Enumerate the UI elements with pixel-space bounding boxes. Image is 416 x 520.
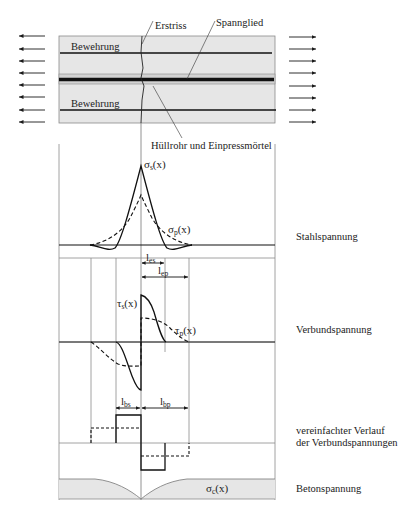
top-reinforcement-label: Bewehrung [71,41,120,52]
steel-stress-panel: σs(x) σp(x) Stahlspannung les lep [59,158,359,278]
concrete-stress-title: Betonspannung [296,483,362,494]
tau-s-label: τs(x) [117,297,138,311]
tension-member-diagram: Erstriss Spannglied Bewehrung Bewehrung … [0,0,416,520]
concrete-stress-panel: σc(x) Betonspannung [59,479,362,499]
steel-stress-title: Stahlspannung [296,231,359,242]
l-bs-label: lbs [121,395,131,409]
diagram-frame [59,123,275,500]
simplified-tau-s [116,415,165,470]
l-ep-label: lep [158,264,168,278]
bond-stress-title: Verbundspannung [296,324,373,335]
left-tension-arrows [19,36,45,122]
simplified-bond-title-2: der Verbundspannungen [296,437,398,448]
tau-p-label: τp(x) [175,324,196,338]
sigma-s-label: σs(x) [144,158,166,172]
l-es-label: les [146,251,155,265]
simplified-bond-panel: lbs lbp vereinfachter Verlauf der Verbun… [91,395,398,470]
tendon-label: Spannglied [216,17,264,28]
l-bp-label: lbp [160,395,171,409]
simplified-bond-title-1: vereinfachter Verlauf [296,425,385,436]
bottom-reinforcement-label: Bewehrung [71,98,120,109]
sigma-p-label: σp(x) [168,223,191,237]
simplified-tau-p [91,428,189,456]
sigma-c-label: σc(x) [206,482,228,496]
bond-stress-panel: τs(x) τp(x) Verbundspannung [59,295,373,390]
duct-grout-label: Hüllrohr und Einpressmörtel [151,140,272,151]
right-tension-arrows [289,37,316,122]
concrete-stress-fill [59,479,275,499]
first-crack-label: Erstriss [155,20,187,31]
